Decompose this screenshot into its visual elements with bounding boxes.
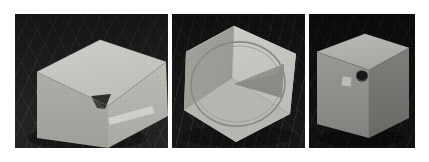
viewport-panel-middle[interactable] [172, 14, 305, 148]
viewport-panel-right[interactable] [309, 14, 415, 148]
box-render-middle [172, 14, 305, 148]
panel-separator-1 [168, 14, 172, 148]
panel-separator-2 [305, 14, 309, 148]
box-render-right [309, 14, 415, 148]
viewport-panel-strip [0, 0, 429, 162]
square-patch-right [342, 77, 352, 87]
box-render-left [15, 14, 168, 148]
circular-hole-right [356, 70, 368, 81]
viewport-panel-left[interactable] [15, 14, 168, 148]
